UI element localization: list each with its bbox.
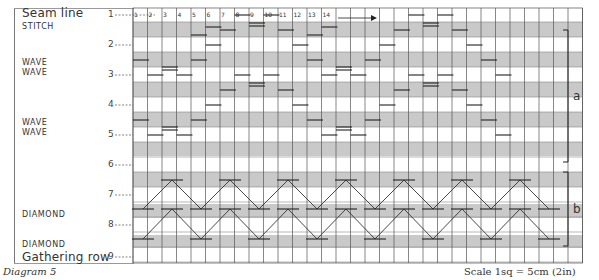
section-label: WAVE — [22, 68, 47, 77]
row-number: 9 — [108, 251, 114, 261]
arrow-head-icon — [371, 15, 377, 21]
column-number: 11 — [279, 11, 287, 18]
section-label: WAVE — [22, 128, 47, 137]
section-label: WAVE — [22, 118, 47, 127]
row-number: 3 — [108, 69, 114, 79]
row-number: 7 — [108, 189, 114, 199]
section-label: DIAMOND — [22, 240, 66, 249]
column-number: 6 — [207, 11, 211, 18]
row-number: 5 — [108, 129, 114, 139]
section-label: DIAMOND — [22, 210, 66, 219]
column-number: 12 — [294, 11, 302, 18]
section-label: STITCH — [22, 22, 54, 31]
column-number: 5 — [192, 11, 196, 18]
column-number: 3 — [163, 11, 167, 18]
scale-label: Scale 1sq = 5cm (2in) — [464, 266, 576, 277]
bracket-label-a: a — [573, 89, 580, 103]
row-number: 4 — [108, 99, 114, 109]
row-number: 8 — [108, 219, 114, 229]
column-number: 2 — [149, 11, 153, 18]
gray-band — [133, 82, 583, 97]
row-number: 6 — [108, 159, 114, 169]
column-number: 7 — [221, 11, 225, 18]
column-number: 9 — [250, 11, 254, 18]
column-number: 13 — [308, 11, 316, 18]
gray-band — [133, 235, 583, 248]
seam-line-label: Seam line — [22, 6, 83, 20]
column-number: 4 — [178, 11, 182, 18]
smocking-diagram: 1234567891011121314ab Seam line STITCHWA… — [0, 0, 599, 280]
bracket-label-b: b — [573, 202, 581, 216]
gray-band — [133, 142, 583, 156]
section-label: WAVE — [22, 58, 47, 67]
gray-band — [133, 204, 583, 218]
row-number: 1 — [108, 9, 114, 19]
pleat-grid: 1234567891011121314ab — [0, 0, 599, 280]
row-number: 2 — [108, 39, 114, 49]
column-number: 14 — [323, 11, 331, 18]
column-number: 1 — [134, 11, 138, 18]
gathering-row-label: Gathering row — [22, 250, 110, 264]
diagram-caption: Diagram 5 — [3, 266, 56, 277]
